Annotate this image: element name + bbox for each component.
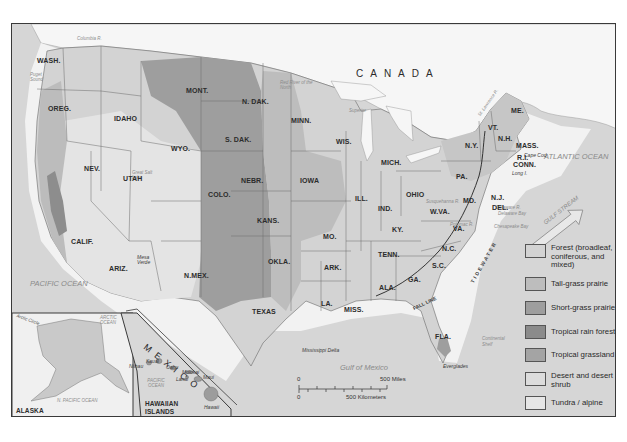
state-label-mo: MO.	[323, 233, 337, 240]
state-label-iowa: IOWA	[300, 177, 319, 184]
chesapeake-bay-label: Chesapeake Bay	[494, 224, 528, 229]
state-label-fla: FLA.	[435, 333, 451, 340]
pacific-ocean-label: PACIFIC OCEAN	[30, 279, 70, 288]
state-label-calif: CALIF.	[71, 238, 93, 245]
state-label-me: ME.	[511, 107, 524, 114]
susquehanna-r-label: Susquehanna R.	[426, 199, 460, 204]
arctic-ocean-label: ARCTIC OCEAN	[100, 315, 122, 325]
state-label-nmex: N.MEX.	[184, 272, 209, 279]
long-island-label: Long I.	[512, 170, 527, 176]
state-label-mich: MICH.	[381, 159, 401, 166]
state-label-conn: CONN.	[513, 161, 536, 168]
superior-label: Superior	[349, 108, 366, 113]
legend-item-tropical-grassland: Tropical grassland	[525, 348, 617, 362]
scale-zero-km: 0	[297, 394, 300, 400]
state-label-mass: MASS.	[516, 142, 539, 149]
hawaii-title-line2: ISLANDS	[145, 408, 178, 416]
state-label-ind: IND.	[378, 205, 392, 212]
state-label-nh: N.H.	[498, 135, 512, 142]
state-label-wis: WIS.	[336, 138, 352, 145]
state-label-ariz: ARIZ.	[109, 265, 128, 272]
gulf-of-mexico-label: Gulf of Mexico	[340, 363, 388, 372]
state-label-minn: MINN.	[291, 117, 311, 124]
country-label-canada: CANADA	[356, 68, 440, 79]
state-label-nebr: NEBR.	[241, 177, 263, 184]
mississippi-delta-label: Mississippi Delta	[302, 347, 339, 353]
state-label-nj: N.J.	[491, 194, 504, 201]
hawaii-title: HAWAIIAN ISLANDS	[145, 400, 178, 416]
state-label-wyo: WYO.	[171, 145, 190, 152]
state-label-wva: W.VA.	[430, 208, 450, 215]
n-pacific-ocean-label: N. PACIFIC OCEAN	[57, 398, 97, 403]
state-label-vt: VT.	[488, 124, 498, 131]
state-label-va: VA.	[453, 225, 464, 232]
state-label-oreg: OREG.	[48, 105, 71, 112]
legend-item-tundra: Tundra / alpine	[525, 396, 617, 410]
state-label-ohio: OHIO	[406, 191, 424, 198]
mesa-verde-label: Mesa Verde	[137, 255, 157, 265]
state-label-ga: GA.	[408, 276, 421, 283]
legend-label-desert: Desert and desert shrub	[551, 372, 617, 389]
state-label-texas: TEXAS	[252, 308, 276, 315]
island-molokai: Molokai	[182, 369, 199, 375]
everglades-label: Everglades	[443, 363, 468, 369]
state-label-ark: ARK.	[324, 264, 342, 271]
legend-label-tallgrass: Tall-grass prairie	[551, 280, 617, 289]
scale-km-label: 500 Kilometers	[346, 394, 386, 400]
state-label-wash: WASH.	[37, 57, 60, 64]
state-label-ill: ILL.	[355, 195, 368, 202]
state-label-ala: ALA.	[379, 284, 396, 291]
puget-sound-label: Puget Sound	[30, 72, 52, 82]
legend-item-forest: Forest (broadleaf, coniferous, and mixed…	[525, 244, 617, 270]
continental-shelf-label: Continental Shelf	[482, 336, 516, 348]
state-label-kans: KANS.	[257, 217, 279, 224]
state-label-sc: S.C.	[432, 262, 446, 269]
legend-label-forest: Forest (broadleaf, coniferous, and mixed…	[551, 244, 617, 270]
legend-label-tropical-rainforest: Tropical rain forest	[551, 328, 617, 337]
legend-swatch-tropical-rainforest	[525, 325, 546, 339]
legend-item-shortgrass: Short-grass prairie	[525, 301, 617, 315]
scale-zero-miles: 0	[297, 376, 300, 382]
legend-item-tropical-rainforest: Tropical rain forest	[525, 325, 617, 339]
alaska-title: ALASKA	[16, 407, 44, 414]
state-label-ny: N.Y.	[465, 142, 478, 149]
state-label-tenn: TENN.	[378, 251, 400, 258]
legend-swatch-shortgrass	[525, 301, 546, 315]
columbia-r-label: Columbia R.	[77, 36, 102, 41]
legend-swatch-tropical-grassland	[525, 348, 546, 362]
atlantic-ocean-label: ATLANTIC OCEAN	[544, 152, 590, 161]
state-label-mont: MONT.	[186, 87, 208, 94]
state-label-okla: OKLA.	[268, 258, 290, 265]
state-label-nev: NEV.	[84, 165, 100, 172]
state-label-ky: KY.	[392, 226, 403, 233]
island-maui: Maui	[203, 374, 214, 380]
red-river-north-label: Red River of the North	[280, 80, 316, 90]
legend-item-tallgrass: Tall-grass prairie	[525, 277, 617, 291]
island-oahu: Oahu	[166, 364, 178, 370]
island-kauai: Kauai	[146, 358, 159, 364]
state-label-utah: UTAH	[123, 175, 142, 182]
state-label-sdak: S. DAK.	[225, 136, 251, 143]
state-label-colo: COLO.	[208, 191, 231, 198]
legend-label-tundra: Tundra / alpine	[551, 399, 617, 408]
state-label-del: DEL.	[492, 204, 508, 211]
state-label-md: MD.	[463, 197, 476, 204]
legend-label-shortgrass: Short-grass prairie	[551, 304, 617, 313]
legend-swatch-desert	[525, 372, 546, 386]
state-label-ndak: N. DAK.	[242, 98, 269, 105]
island-niihau: Niihau	[129, 363, 143, 369]
legend-swatch-tallgrass	[525, 277, 546, 291]
legend-item-desert: Desert and desert shrub	[525, 372, 617, 389]
legend-label-tropical-grassland: Tropical grassland	[551, 351, 617, 360]
state-label-pa: PA.	[456, 173, 467, 180]
state-label-miss: MISS.	[344, 306, 364, 313]
legend-swatch-forest	[525, 244, 546, 258]
state-label-ri: R.I.	[517, 154, 528, 161]
state-label-idaho: IDAHO	[114, 115, 137, 122]
scale-miles-label: 500 Miles	[380, 376, 406, 382]
delaware-bay-label: Delaware Bay	[498, 211, 526, 216]
legend-swatch-tundra	[525, 396, 546, 410]
island-hawaii: Hawaii	[204, 404, 219, 410]
hawaii-title-line1: HAWAIIAN	[145, 400, 178, 408]
hawaii-pacific-label: PACIFIC OCEAN	[145, 378, 167, 388]
